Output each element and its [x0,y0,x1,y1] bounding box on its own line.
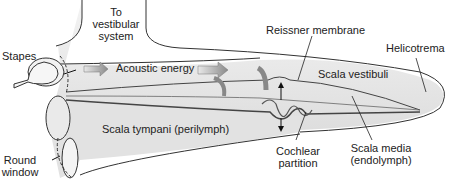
label-to-vestibular-2: vestibular [86,18,146,30]
label-to-vestibular-1: To [96,6,136,18]
label-scala-media-2: (endolymph) [346,154,416,166]
label-cochlear-partition-2: partition [268,157,328,169]
label-reissner-membrane: Reissner membrane [266,24,365,36]
round-window-membrane [46,96,70,140]
label-stapes: Stapes [2,50,36,62]
label-to-vestibular-3: system [86,30,146,42]
label-scala-media-1: Scala media [346,142,416,154]
round-window [62,138,78,178]
label-acoustic-energy: Acoustic energy [116,62,194,74]
label-helicotrema: Helicotrema [386,42,445,54]
label-cochlear-partition-1: Cochlear [268,145,328,157]
label-scala-tympani: Scala tympani (perilymph) [102,123,229,135]
label-scala-vestibuli: Scala vestibuli [318,68,388,80]
label-round-window-2: window [0,166,40,178]
label-round-window-1: Round [0,154,40,166]
